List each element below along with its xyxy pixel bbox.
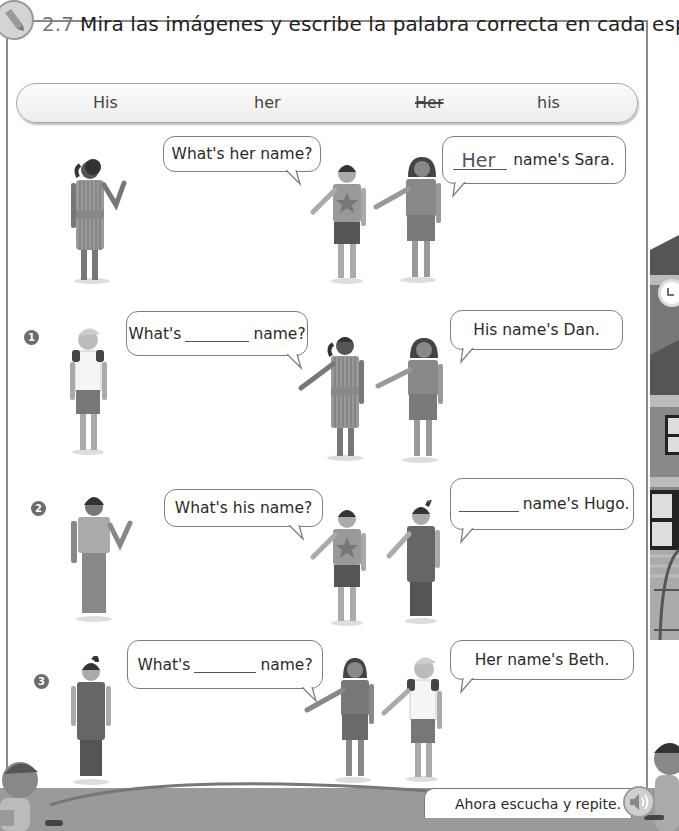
word-bank-item-used: Her: [415, 93, 443, 112]
item-3-question-pre: What's: [137, 656, 190, 674]
girl-long-hair-figure: [370, 155, 445, 285]
item-2-answer-bubble: name's Hugo.: [450, 478, 634, 530]
boy-star-shirt-figure: [305, 505, 371, 627]
exercise-number: 2.7: [42, 12, 74, 36]
girl-striped-dress-figure: [66, 155, 130, 285]
listen-and-repeat-label: Ahora escucha y repite.: [424, 788, 632, 818]
boy-star-shirt-figure: [305, 160, 371, 285]
item-3-blank-input[interactable]: [194, 657, 256, 673]
boy-blond-figure: [380, 655, 452, 783]
item-2-answer-post: name's Hugo.: [523, 495, 630, 513]
item-3-answer: Her name's Beth.: [475, 651, 610, 669]
item-2-question-bubble: What's his name?: [164, 489, 323, 527]
item-3-answer-bubble: Her name's Beth.: [450, 640, 634, 680]
example-question-bubble: What's her name?: [163, 136, 321, 172]
item-1-answer: His name's Dan.: [473, 321, 599, 339]
boy-blond-figure: [62, 326, 122, 456]
audio-play-button[interactable]: [623, 786, 655, 818]
item-2-marker: 2: [31, 501, 46, 516]
child-with-jump-rope-right: [640, 735, 679, 831]
example-question: What's her name?: [172, 145, 313, 163]
girl-long-hair-figure: [372, 336, 447, 464]
item-1-marker: 1: [24, 330, 39, 345]
item-2-question: What's his name?: [175, 499, 312, 517]
girl-ponytail-figure: [383, 500, 449, 625]
girl-striped-dress-pointing-figure: [297, 332, 377, 462]
item-1-question-pre: What's: [128, 325, 181, 343]
word-bank-item: his: [537, 93, 560, 112]
girl-long-hair-pointing-figure: [303, 656, 383, 784]
word-bank-item: her: [254, 93, 281, 112]
word-bank-item: His: [93, 93, 118, 112]
item-2-blank-input[interactable]: [459, 496, 519, 512]
item-3-marker: 3: [34, 674, 49, 689]
example-answer-rest: name's Sara.: [513, 151, 614, 169]
exercise-instruction: Mira las imágenes y escribe la palabra c…: [80, 12, 679, 36]
boy-waving-figure: [66, 493, 138, 623]
speaker-icon: [628, 792, 650, 812]
item-1-blank-input[interactable]: [185, 326, 249, 342]
item-3-question-bubble: What's name?: [127, 640, 323, 689]
example-answer-filled: Her: [453, 151, 507, 170]
example-answer-bubble: Hername's Sara.: [442, 136, 626, 184]
exercise-title: 2.7Mira las imágenes y escribe la palabr…: [42, 12, 679, 36]
school-building-illustration: [650, 220, 679, 640]
item-1-question-bubble: What's name?: [126, 311, 308, 356]
item-1-answer-bubble: His name's Dan.: [450, 310, 623, 350]
listen-label-text: Ahora escucha y repite.: [455, 796, 621, 812]
word-bank: His her Her his: [16, 83, 638, 123]
